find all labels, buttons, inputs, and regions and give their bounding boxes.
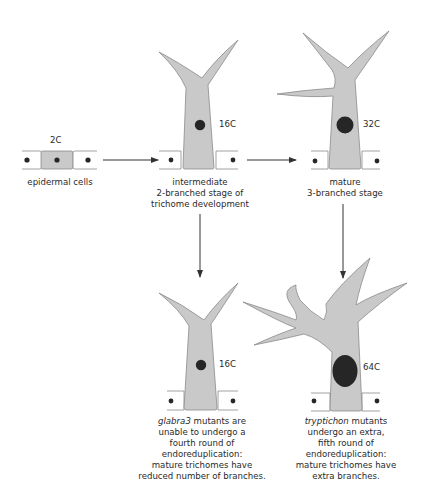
- caption-glabra3: glabra3 mutants are unable to undergo a …: [132, 416, 272, 482]
- nucleus-icon: [54, 157, 59, 162]
- ploidy-label-tryptichon: 64C: [363, 362, 380, 372]
- nucleus-icon: [85, 157, 90, 162]
- nucleus-icon: [169, 158, 174, 163]
- nucleus-icon: [169, 399, 174, 404]
- epidermal-cells-group: [22, 151, 97, 169]
- trichome-intermediate: [159, 40, 238, 169]
- nucleus-icon: [375, 399, 380, 404]
- gene-name-tryptichon: tryptichon: [305, 416, 349, 426]
- ploidy-label-glabra3: 16C: [219, 359, 236, 369]
- trichome-mature: [277, 31, 389, 169]
- gene-name-glabra3: glabra3: [158, 416, 191, 426]
- caption-intermediate: intermediate 2-branched stage of trichom…: [140, 177, 260, 210]
- nucleus-icon: [231, 399, 236, 404]
- nucleus-icon: [333, 355, 358, 387]
- ploidy-label-intermediate: 16C: [219, 119, 236, 129]
- caption-mature: mature 3-branched stage: [290, 177, 400, 199]
- ploidy-label-epidermal: 2C: [50, 135, 61, 145]
- nucleus-icon: [337, 117, 354, 134]
- nucleus-icon: [196, 360, 206, 370]
- ploidy-label-mature: 32C: [363, 119, 380, 129]
- nucleus-icon: [312, 399, 317, 404]
- caption-tryptichon: tryptichon mutants undergo an extra, fif…: [290, 416, 402, 482]
- nucleus-icon: [24, 157, 29, 162]
- nucleus-icon: [231, 158, 236, 163]
- caption-epidermal: epidermal cells: [10, 177, 110, 188]
- trichome-tryptichon: [243, 258, 407, 411]
- nucleus-icon: [195, 120, 205, 130]
- nucleus-icon: [313, 159, 318, 164]
- trichome-glabra3: [159, 283, 238, 410]
- nucleus-icon: [375, 159, 380, 164]
